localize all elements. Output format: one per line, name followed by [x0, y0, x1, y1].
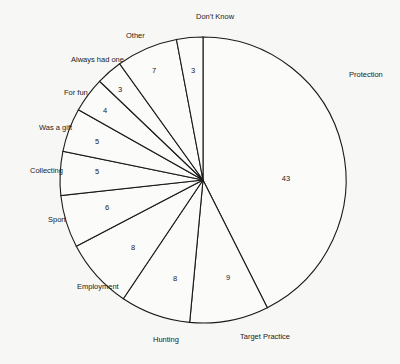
slice-label: Hunting	[153, 335, 179, 344]
slice-label: Other	[126, 31, 145, 40]
slice-value: 9	[226, 273, 230, 282]
slice-value: 3	[191, 66, 195, 75]
slice-label: Was a gift	[39, 123, 73, 132]
slice-label: Collecting	[30, 166, 63, 175]
slice-label: For fun	[64, 88, 88, 97]
pie-slices	[60, 37, 346, 323]
slice-label: Protection	[349, 70, 383, 79]
slice-value: 4	[103, 106, 107, 115]
slice-value: 3	[118, 85, 122, 94]
slice-value: 7	[152, 66, 156, 75]
slice-value: 43	[282, 174, 290, 183]
pie-chart: Protection43Target Practice9Hunting8Empl…	[0, 0, 400, 364]
slice-value: 8	[131, 243, 135, 252]
slice-label: Target Practice	[240, 332, 290, 341]
slice-label: Always had one	[71, 55, 124, 64]
slice-label: Don't Know	[196, 12, 235, 21]
slice-value: 5	[95, 137, 99, 146]
slice-value: 6	[105, 203, 109, 212]
slice-value: 5	[95, 167, 99, 176]
slice-label: Sport	[48, 215, 67, 224]
slice-label: Employment	[77, 282, 120, 291]
slice-value: 8	[173, 274, 177, 283]
